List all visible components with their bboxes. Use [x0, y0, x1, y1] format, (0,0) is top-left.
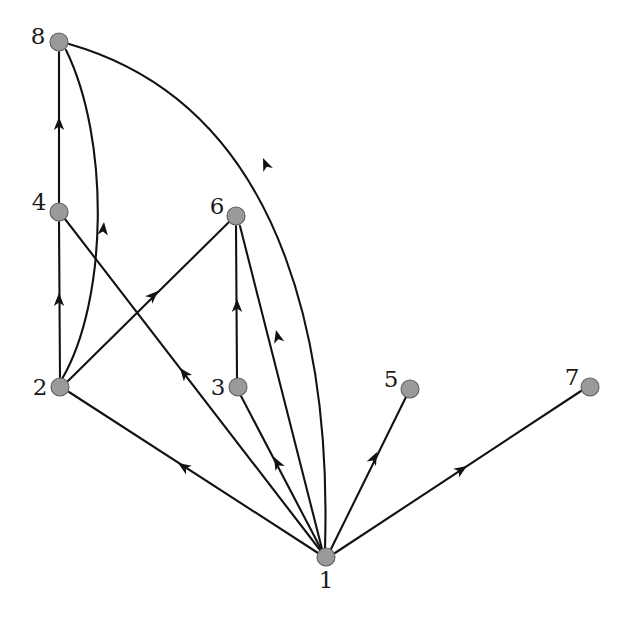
graph-node-4[interactable] — [50, 203, 68, 221]
graph-node-5[interactable] — [401, 380, 419, 398]
edge-2-to-6 — [68, 222, 229, 381]
node-label-6: 6 — [210, 193, 225, 219]
edge-1-to-3 — [241, 396, 321, 549]
directed-graph-figure: 12345678 — [0, 0, 624, 623]
arrowhead-1-to-3 — [269, 455, 284, 471]
edge-1-to-7 — [335, 391, 581, 553]
graph-node-6[interactable] — [227, 207, 245, 225]
arrowhead-1-to-6 — [271, 329, 284, 344]
node-label-7: 7 — [565, 364, 580, 390]
edge-1-to-4 — [65, 219, 320, 550]
node-label-5: 5 — [384, 366, 399, 392]
arrowhead-1-to-7 — [453, 462, 470, 478]
graph-node-3[interactable] — [229, 378, 247, 396]
arrowhead-1-to-8 — [258, 156, 273, 172]
node-label-4: 4 — [32, 189, 47, 215]
node-labels-layer: 12345678 — [31, 23, 580, 593]
node-label-2: 2 — [33, 374, 48, 400]
arrowhead-2-to-8 — [97, 221, 109, 235]
graph-canvas: 12345678 — [0, 0, 624, 623]
graph-node-2[interactable] — [51, 378, 69, 396]
graph-node-7[interactable] — [581, 378, 599, 396]
graph-node-1[interactable] — [317, 548, 335, 566]
node-label-3: 3 — [211, 374, 226, 400]
edge-1-to-8 — [69, 44, 325, 548]
graph-node-8[interactable] — [50, 33, 68, 51]
edges-layer — [59, 44, 581, 553]
node-label-8: 8 — [31, 23, 46, 49]
node-label-1: 1 — [319, 567, 334, 593]
edge-1-to-5 — [331, 397, 406, 549]
